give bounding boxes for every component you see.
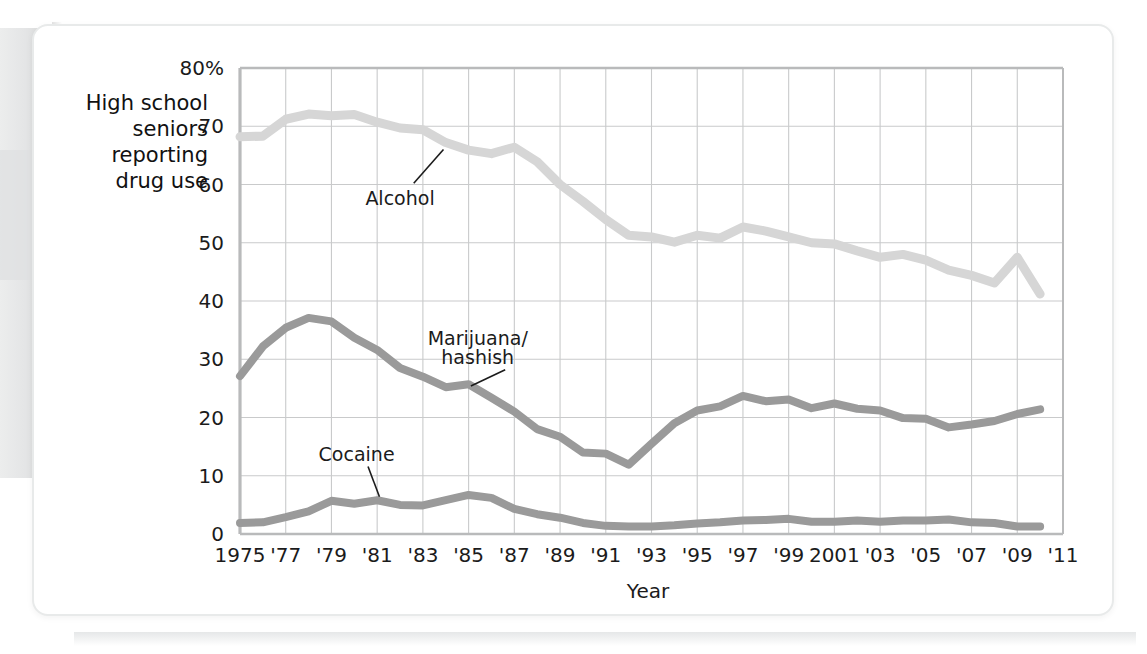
series-line-cocaine <box>240 495 1040 526</box>
x-tick-label: '09 <box>1002 543 1033 567</box>
x-tick-label: '95 <box>682 543 713 567</box>
x-tick-label: '89 <box>545 543 576 567</box>
x-tick-label: '03 <box>865 543 896 567</box>
annotation-leader-line <box>414 150 444 184</box>
annotation-leader-line <box>471 370 505 386</box>
x-tick-label: '07 <box>956 543 987 567</box>
x-tick-label: '85 <box>453 543 484 567</box>
y-tick-label: 20 <box>199 406 224 430</box>
x-tick-label: '11 <box>1048 543 1079 567</box>
x-tick-label: 2001 <box>809 543 860 567</box>
x-axis-title: Year <box>626 579 670 603</box>
annotation-leader-line <box>368 466 379 496</box>
x-tick-label: '99 <box>773 543 804 567</box>
x-tick-label: '05 <box>910 543 941 567</box>
x-tick-label: '91 <box>590 543 621 567</box>
x-tick-label: '93 <box>636 543 667 567</box>
y-tick-label: 50 <box>199 231 224 255</box>
x-tick-label: '87 <box>499 543 530 567</box>
y-caption-line-2: seniors <box>133 117 208 141</box>
annotation-label: Cocaine <box>319 443 395 465</box>
x-tick-label: '83 <box>407 543 438 567</box>
y-tick-label: 10 <box>199 464 224 488</box>
x-tick-label: '79 <box>316 543 347 567</box>
y-caption-line-1: High school <box>86 91 208 115</box>
line-chart: 01020304050607080% 1975'77'79'81'83'85'8… <box>0 0 1147 654</box>
annotation-label: Alcohol <box>365 187 434 209</box>
annotation-label: hashish <box>441 346 514 368</box>
y-tick-label: 80% <box>180 56 224 80</box>
series-annotation-labels: AlcoholMarijuana/hashishCocaine <box>319 187 529 465</box>
x-tick-label: '97 <box>727 543 758 567</box>
x-tick-label: '77 <box>270 543 301 567</box>
y-tick-label: 40 <box>199 289 224 313</box>
y-tick-label: 30 <box>199 347 224 371</box>
x-tick-label: 1975 <box>215 543 266 567</box>
x-tick-label: '81 <box>362 543 393 567</box>
x-axis-tick-labels: 1975'77'79'81'83'85'87'89'91'93'95'97'99… <box>215 543 1079 567</box>
series-line-alcohol <box>240 114 1040 294</box>
y-caption-line-3: reporting <box>111 143 208 167</box>
y-caption-line-4: drug use <box>116 169 208 193</box>
chart-container: 01020304050607080% 1975'77'79'81'83'85'8… <box>0 0 1147 654</box>
